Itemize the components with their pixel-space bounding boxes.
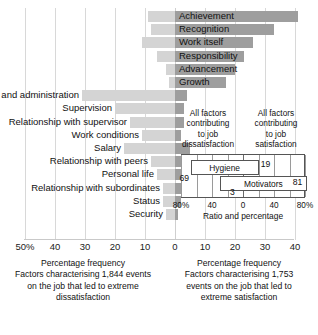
- inset-header-dissatisfaction: All factorscontributingto jobdissatisfac…: [176, 108, 240, 150]
- bar-row: Responsibility: [0, 50, 318, 63]
- bar-row: Work itself: [0, 36, 318, 49]
- caption-line: Percentage frequency: [166, 258, 312, 269]
- x-tick-10: 10: [140, 240, 151, 253]
- bar-row: Advancement: [0, 63, 318, 76]
- caption-dissatisfaction: Percentage frequencyFactors characterisi…: [8, 258, 158, 304]
- bar-category-label: Advancement: [179, 62, 237, 75]
- bar-category-label: Security: [129, 207, 163, 220]
- bar-category-label: Relationship with peers: [50, 154, 148, 167]
- bar-category-label: Status: [133, 194, 160, 207]
- x-tick-50: 50%: [15, 240, 34, 253]
- caption-line: Factors characterising 1,844 events: [8, 269, 158, 280]
- bar-category-label: Achievement: [179, 9, 234, 22]
- bar-row: Company policy and administration: [0, 89, 318, 102]
- bar-category-label: Relationship with subordinates: [31, 181, 160, 194]
- x-tick-20: 20: [110, 240, 121, 253]
- bar-segment-satisfaction: [175, 90, 187, 101]
- caption-line: to job: [244, 129, 308, 139]
- caption-satisfaction: Percentage frequencyFactors characterisi…: [166, 258, 312, 304]
- caption-line: dissatisfaction: [176, 139, 240, 149]
- bar-segment-dissatisfaction: [148, 11, 175, 22]
- x-tick-30: 30: [80, 240, 91, 253]
- inset-ratio-chart: All factorscontributingto jobdissatisfac…: [176, 108, 310, 236]
- bar-segment-dissatisfaction: [124, 143, 175, 154]
- bar-row: Recognition: [0, 23, 318, 36]
- caption-line: All factors: [244, 108, 308, 118]
- bar-segment-dissatisfaction: [115, 103, 175, 114]
- caption-line: extreme satisfaction: [166, 292, 312, 303]
- bar-group: [0, 37, 318, 48]
- inset-value-19: 19: [261, 159, 271, 169]
- inset-axis-title: Ratio and percentage: [176, 211, 310, 222]
- bar-category-label: Supervision: [62, 101, 112, 114]
- bar-segment-dissatisfaction: [130, 117, 175, 128]
- inset-value-81: 81: [293, 177, 303, 187]
- bar-group: [0, 11, 318, 22]
- caption-line: contributing: [244, 118, 308, 128]
- bar-segment-dissatisfaction: [163, 183, 175, 194]
- inset-tick-0: 0: [241, 200, 246, 211]
- bar-row: Growth: [0, 76, 318, 89]
- bar-group: [0, 77, 318, 88]
- caption-line: Percentage frequency: [8, 258, 158, 269]
- caption-line: events on the job that led to: [166, 281, 312, 292]
- bar-category-label: Growth: [179, 75, 210, 88]
- inset-value-3: 3: [230, 187, 235, 197]
- bar-category-label: Relationship with supervisor: [9, 115, 127, 128]
- inset-bar-hygiene: Hygiene: [191, 160, 259, 175]
- inset-bar-label: Hygiene: [192, 161, 258, 176]
- bar-segment-dissatisfaction: [166, 64, 175, 75]
- bar-group: [0, 51, 318, 62]
- inset-value-69: 69: [180, 173, 190, 183]
- bar-segment-dissatisfaction: [157, 51, 175, 62]
- caption-line: contributing: [176, 118, 240, 128]
- inset-headers: All factorscontributingto jobdissatisfac…: [176, 108, 310, 152]
- x-tick-10: 10: [200, 240, 211, 253]
- x-tick-20: 20: [230, 240, 241, 253]
- x-tick-40: 40: [50, 240, 61, 253]
- inset-header-satisfaction: All factorscontributingto jobsatisfactio…: [244, 108, 308, 150]
- x-tick-0: 0: [172, 240, 177, 253]
- bar-group: [0, 24, 318, 35]
- inset-tick-80: 80%: [173, 200, 189, 211]
- bar-category-label: Salary: [94, 141, 121, 154]
- bar-segment-dissatisfaction: [151, 156, 175, 167]
- bar-row: Achievement: [0, 10, 318, 23]
- bar-segment-dissatisfaction: [142, 37, 175, 48]
- inset-plot-box: HygieneMotivators6919381: [181, 154, 305, 198]
- x-tick-40: 40: [290, 240, 301, 253]
- bar-segment-dissatisfaction: [151, 24, 175, 35]
- bar-category-label: Responsibility: [179, 49, 238, 62]
- bar-category-label: Work itself: [179, 35, 223, 48]
- caption-line: Factors characterising 1,753: [166, 269, 312, 280]
- bar-segment-dissatisfaction: [142, 130, 175, 141]
- bar-category-label: Recognition: [179, 22, 229, 35]
- x-tick-30: 30: [260, 240, 271, 253]
- bar-segment-dissatisfaction: [157, 169, 175, 180]
- caption-line: All factors: [176, 108, 240, 118]
- inset-tick-40: 40: [207, 200, 216, 211]
- bar-category-label: Work conditions: [72, 128, 139, 141]
- bar-segment-dissatisfaction: [82, 90, 175, 101]
- caption-line: to job: [176, 129, 240, 139]
- x-axis-tick-labels: 50%40302010010203040: [0, 240, 318, 254]
- herzberg-two-factor-chart: AchievementRecognitionWork itselfRespons…: [0, 0, 318, 335]
- bar-category-label: Personal life: [102, 167, 154, 180]
- inset-tick-40: 40: [269, 200, 278, 211]
- bar-group: [0, 64, 318, 75]
- caption-line: satisfaction: [244, 139, 308, 149]
- caption-line: on the job that led to extreme: [8, 281, 158, 292]
- caption-line: dissatisfaction: [8, 292, 158, 303]
- inset-tick-80: 80%: [297, 200, 313, 211]
- bar-category-label: Company policy and administration: [0, 88, 79, 101]
